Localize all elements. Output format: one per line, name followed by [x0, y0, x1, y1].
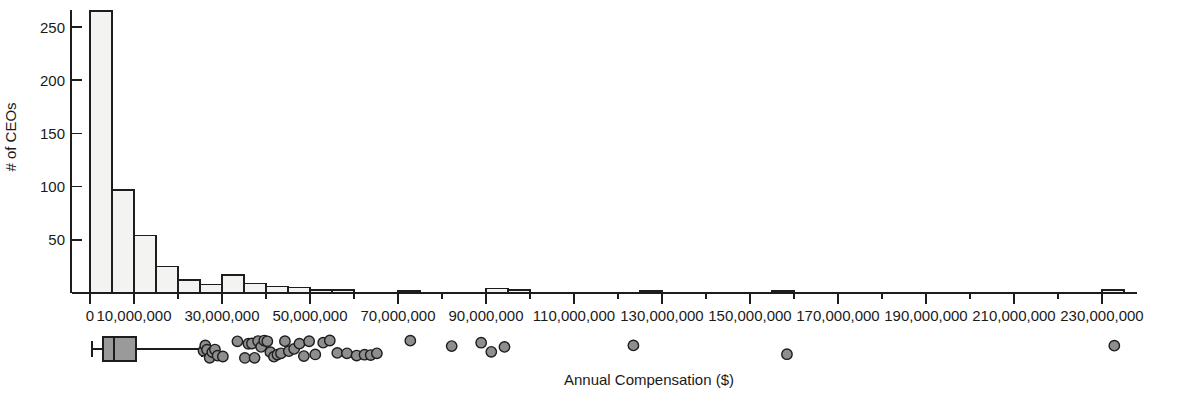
x-tick-label: 90,000,000 [448, 307, 523, 324]
boxplot-outlier [476, 338, 486, 348]
x-tick-label: 70,000,000 [360, 307, 435, 324]
x-tick-label: 110,000,000 [533, 307, 615, 324]
boxplot-outlier [486, 347, 496, 357]
boxplot-outlier [446, 341, 456, 351]
y-tick-label: 50 [48, 231, 65, 248]
boxplot-outlier [299, 351, 309, 361]
boxplot-outlier [310, 349, 320, 359]
boxplot-outlier [499, 342, 509, 352]
x-tick-label: 210,000,000 [972, 307, 1055, 324]
x-tick-label: 0 [86, 307, 94, 324]
histogram-bar [112, 190, 134, 293]
boxplot-outlier [405, 335, 415, 345]
histogram-bar [266, 287, 288, 293]
y-tick-label: 100 [40, 178, 65, 195]
boxplot-outlier [1109, 340, 1119, 350]
x-axis-title: Annual Compensation ($) [564, 371, 734, 388]
boxplot-outlier [218, 351, 228, 361]
x-tick-label: 230,000,000 [1060, 307, 1143, 324]
x-tick-label: 130,000,000 [620, 307, 703, 324]
y-axis-title: # of CEOs [2, 102, 19, 171]
histogram-bar [90, 11, 112, 293]
x-tick-label: 50,000,000 [272, 307, 347, 324]
histogram-bar [200, 284, 222, 293]
boxplot-outlier [294, 338, 304, 348]
figure-root: 50100150200250 010,000,00030,000,00050,0… [0, 0, 1183, 397]
x-axis: 010,000,00030,000,00050,000,00070,000,00… [72, 293, 1143, 324]
boxplot-outlier [782, 349, 792, 359]
y-tick-label: 250 [40, 19, 65, 36]
x-tick-label: 30,000,000 [184, 307, 259, 324]
y-tick-label: 200 [40, 72, 65, 89]
histogram-bar [178, 280, 200, 293]
box-iqr [103, 337, 136, 361]
x-tick-label: 190,000,000 [884, 307, 967, 324]
boxplot-outlier [262, 336, 272, 346]
x-tick-label: 170,000,000 [796, 307, 879, 324]
histogram-bar [222, 275, 244, 293]
x-tick-label: 10,000,000 [96, 307, 171, 324]
boxplot-outlier [342, 348, 352, 358]
y-tick-label: 150 [40, 125, 65, 142]
x-tick-label: 150,000,000 [708, 307, 791, 324]
boxplot-outlier [325, 335, 335, 345]
boxplot-outlier [280, 336, 290, 346]
boxplot [92, 335, 1119, 363]
boxplot-outlier [332, 348, 342, 358]
boxplot-outlier [372, 348, 382, 358]
boxplot-outlier [240, 353, 250, 363]
boxplot-outlier [249, 353, 259, 363]
histogram-bars [90, 11, 1124, 293]
histogram-bar [156, 266, 178, 293]
boxplot-outlier [628, 340, 638, 350]
histogram-bar [244, 283, 266, 293]
histogram-boxplot-figure: 50100150200250 010,000,00030,000,00050,0… [0, 0, 1183, 397]
y-axis: 50100150200250 [40, 10, 82, 293]
boxplot-outlier [304, 336, 314, 346]
histogram-bar [134, 236, 156, 293]
boxplot-outlier [232, 336, 242, 346]
